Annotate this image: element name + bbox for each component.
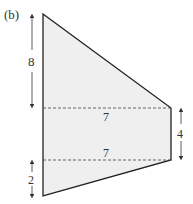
dimension-7-upper-label: 7 (103, 110, 109, 124)
dimension-8-label: 8 (28, 54, 35, 69)
figure-canvas: (b) 8 7 7 4 2 (0, 0, 193, 204)
quadrilateral-shape (43, 14, 171, 196)
dimension-4-label: 4 (177, 127, 183, 141)
figure-label: (b) (4, 7, 19, 22)
dimension-2-label: 2 (28, 173, 34, 187)
dimension-7-lower-label: 7 (103, 146, 109, 160)
